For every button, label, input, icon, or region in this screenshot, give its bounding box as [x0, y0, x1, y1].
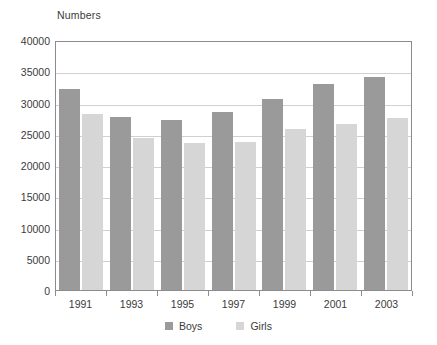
- y-axis-tick-label: 20000: [21, 160, 50, 172]
- legend-entry-girls[interactable]: Girls: [236, 320, 272, 332]
- x-axis-tick-label-2003: 2003: [361, 298, 412, 314]
- y-axis-tick-label-group: 4000035000300002500020000150001000050000: [0, 41, 50, 291]
- bar-boys-2003[interactable]: [364, 77, 385, 290]
- legend-label-girls: Girls: [250, 320, 272, 332]
- bar-group-1993: [107, 42, 158, 290]
- x-axis-tick-label-1995: 1995: [157, 298, 208, 314]
- y-axis-tick-label: 25000: [21, 129, 50, 141]
- y-axis-tick-label: 10000: [21, 223, 50, 235]
- x-axis-tick-mark: [208, 291, 209, 296]
- y-axis-tick-label: 35000: [21, 66, 50, 78]
- legend-swatch-boys-icon: [165, 322, 173, 330]
- bar-group-1997: [208, 42, 259, 290]
- bar-group-1995: [157, 42, 208, 290]
- bar-group-2001: [310, 42, 361, 290]
- x-axis-tick-label-1997: 1997: [208, 298, 259, 314]
- bar-girls-1997[interactable]: [235, 142, 256, 290]
- x-axis-tick-mark: [361, 291, 362, 296]
- y-axis-tick-label: 40000: [21, 35, 50, 47]
- y-axis-tick-label: 5000: [27, 254, 50, 266]
- legend-entry-boys[interactable]: Boys: [165, 320, 202, 332]
- bar-girls-1999[interactable]: [285, 129, 306, 290]
- bar-boys-1995[interactable]: [161, 120, 182, 290]
- bar-chart-figure: Numbers 40000350003000025000200001500010…: [0, 0, 437, 345]
- x-axis-tick-mark: [55, 291, 56, 296]
- bar-group-2003: [360, 42, 411, 290]
- x-axis-tick-mark: [157, 291, 158, 296]
- x-axis-tick-label-1991: 1991: [55, 298, 106, 314]
- bar-boys-1999[interactable]: [262, 99, 283, 290]
- x-axis-tick-mark: [412, 291, 413, 296]
- bar-girls-1991[interactable]: [82, 114, 103, 290]
- bar-group-container: [56, 42, 411, 290]
- legend-swatch-girls-icon: [236, 322, 244, 330]
- y-axis-tick-label: 30000: [21, 98, 50, 110]
- x-axis-tick-mark: [310, 291, 311, 296]
- bar-boys-2001[interactable]: [313, 84, 334, 290]
- chart-legend: BoysGirls: [0, 320, 437, 332]
- legend-label-boys: Boys: [179, 320, 202, 332]
- x-axis-tick-label-1993: 1993: [106, 298, 157, 314]
- bar-girls-1995[interactable]: [184, 143, 205, 290]
- bar-girls-1993[interactable]: [133, 138, 154, 291]
- y-axis-title: Numbers: [57, 9, 101, 21]
- bar-boys-1993[interactable]: [110, 117, 131, 290]
- x-axis-tick-mark: [259, 291, 260, 296]
- plot-area: [55, 41, 412, 291]
- y-axis-tick-label: 0: [44, 285, 50, 297]
- x-axis-tick-label-2001: 2001: [310, 298, 361, 314]
- x-axis-tick-mark: [106, 291, 107, 296]
- bar-group-1991: [56, 42, 107, 290]
- x-axis-tick-mark-group: [55, 291, 412, 297]
- x-axis-tick-label-group: 1991199319951997199920012003: [55, 298, 412, 314]
- bar-group-1999: [259, 42, 310, 290]
- bar-girls-2001[interactable]: [336, 124, 357, 290]
- x-axis-tick-label-1999: 1999: [259, 298, 310, 314]
- bar-girls-2003[interactable]: [387, 118, 408, 291]
- y-axis-tick-label: 15000: [21, 191, 50, 203]
- bar-boys-1997[interactable]: [212, 112, 233, 290]
- bar-boys-1991[interactable]: [59, 89, 80, 290]
